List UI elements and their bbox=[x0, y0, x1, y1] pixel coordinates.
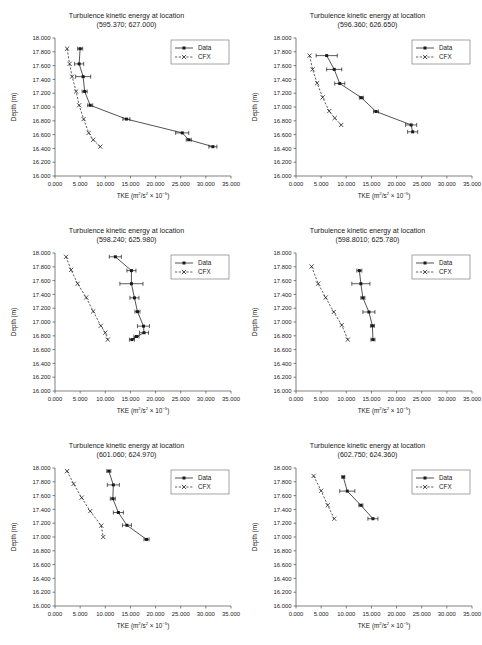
data-point-marker bbox=[346, 490, 349, 493]
cfx-point-marker bbox=[339, 123, 343, 127]
data-point-marker bbox=[360, 96, 363, 99]
series-cfx bbox=[312, 474, 337, 521]
chart-title: Turbulence kinetic energy at location bbox=[69, 227, 184, 235]
y-tick-label: 17.200 bbox=[32, 520, 51, 526]
chart-title: Turbulence kinetic energy at location bbox=[310, 12, 425, 20]
cfx-point-marker bbox=[315, 81, 319, 85]
cfx-point-marker bbox=[88, 509, 92, 513]
x-axis-label: TKE (m2/s2 × 10−5) bbox=[358, 191, 411, 200]
data-point-marker bbox=[361, 296, 364, 299]
y-tick-label: 17.400 bbox=[273, 77, 292, 83]
data-point-marker bbox=[358, 269, 361, 272]
legend[interactable]: DataCFX bbox=[412, 40, 470, 64]
chart-title: Turbulence kinetic energy at location bbox=[69, 12, 184, 20]
cfx-point-marker bbox=[332, 517, 336, 521]
chart-title: Turbulence kinetic energy at location bbox=[310, 442, 425, 450]
data-point-marker bbox=[211, 145, 214, 148]
series-line bbox=[314, 476, 335, 519]
x-tick-label: 0.000 bbox=[289, 396, 304, 402]
data-point-marker bbox=[89, 104, 92, 107]
y-tick-label: 16.400 bbox=[273, 361, 292, 367]
y-tick-label: 17.600 bbox=[273, 278, 292, 284]
data-point-marker bbox=[410, 123, 413, 126]
x-axis-label: TKE (m2/s2 × 10−5) bbox=[117, 406, 170, 415]
y-tick-label: 16.800 bbox=[273, 118, 292, 124]
data-point-marker bbox=[112, 483, 115, 486]
y-tick-label: 17.000 bbox=[273, 104, 292, 110]
y-tick-label: 18.000 bbox=[32, 35, 51, 41]
chart-panel: Turbulence kinetic energy at location(59… bbox=[241, 0, 482, 215]
data-point-marker bbox=[79, 47, 82, 50]
series-cfx bbox=[65, 469, 105, 539]
legend[interactable]: DataCFX bbox=[412, 470, 470, 494]
y-tick-label: 16.000 bbox=[32, 603, 51, 609]
data-point-marker bbox=[325, 54, 328, 57]
data-point-marker bbox=[359, 282, 362, 285]
y-tick-label: 16.600 bbox=[32, 562, 51, 568]
x-tick-label: 30.000 bbox=[438, 611, 457, 617]
y-tick-label: 17.600 bbox=[32, 278, 51, 284]
y-tick-label: 18.000 bbox=[273, 250, 292, 256]
data-point-marker bbox=[145, 538, 148, 541]
data-point-marker bbox=[333, 68, 336, 71]
chart-panel: Turbulence kinetic energy at location(60… bbox=[241, 430, 482, 645]
x-tick-label: 20.000 bbox=[388, 181, 407, 187]
legend-data-marker bbox=[183, 477, 186, 480]
y-tick-label: 17.400 bbox=[32, 77, 51, 83]
cfx-point-marker bbox=[340, 323, 344, 327]
y-tick-label: 17.600 bbox=[32, 63, 51, 69]
x-tick-label: 15.000 bbox=[121, 181, 140, 187]
legend-label-data: Data bbox=[198, 44, 212, 51]
x-tick-label: 5.000 bbox=[314, 611, 329, 617]
y-tick-label: 17.200 bbox=[273, 520, 292, 526]
chart-subtitle: (595.370; 627.000) bbox=[97, 21, 157, 29]
y-tick-label: 17.400 bbox=[32, 507, 51, 513]
x-axis-label: TKE (m2/s2 × 10−5) bbox=[117, 621, 170, 630]
y-tick-label: 16.400 bbox=[32, 361, 51, 367]
cfx-point-marker bbox=[80, 496, 84, 500]
data-point-marker bbox=[187, 138, 190, 141]
x-tick-label: 25.000 bbox=[172, 396, 191, 402]
data-point-marker bbox=[130, 269, 133, 272]
y-tick-label: 16.000 bbox=[32, 173, 51, 179]
series-line bbox=[312, 266, 348, 339]
x-axis-label: TKE (m2/s2 × 10−5) bbox=[358, 406, 411, 415]
legend[interactable]: DataCFX bbox=[171, 40, 229, 64]
figure-panel-grid: Turbulence kinetic energy at location(59… bbox=[0, 0, 482, 645]
y-tick-label: 17.800 bbox=[32, 264, 51, 270]
legend-label-cfx: CFX bbox=[439, 483, 452, 490]
cfx-point-marker bbox=[312, 474, 316, 478]
cfx-point-marker bbox=[99, 324, 103, 328]
y-tick-label: 17.800 bbox=[273, 479, 292, 485]
legend-data-marker bbox=[424, 477, 427, 480]
y-tick-label: 16.200 bbox=[273, 374, 292, 380]
data-point-marker bbox=[125, 118, 128, 121]
x-tick-label: 20.000 bbox=[388, 396, 407, 402]
legend-data-marker bbox=[183, 47, 186, 50]
cfx-point-marker bbox=[321, 95, 325, 99]
cfx-point-marker bbox=[332, 310, 336, 314]
x-tick-label: 0.000 bbox=[289, 181, 304, 187]
legend[interactable]: DataCFX bbox=[171, 470, 229, 494]
cfx-point-marker bbox=[91, 309, 95, 313]
x-tick-label: 35.000 bbox=[463, 396, 482, 402]
chart-subtitle: (598.8010; 625.780) bbox=[336, 236, 400, 244]
cfx-point-marker bbox=[101, 535, 105, 539]
x-tick-label: 10.000 bbox=[337, 396, 356, 402]
x-tick-label: 0.000 bbox=[48, 611, 63, 617]
y-tick-label: 17.400 bbox=[273, 507, 292, 513]
cfx-point-marker bbox=[326, 503, 330, 507]
x-tick-label: 30.000 bbox=[197, 611, 216, 617]
y-tick-label: 16.400 bbox=[273, 146, 292, 152]
chart-subtitle: (601.060; 624.970) bbox=[97, 451, 157, 459]
y-tick-label: 16.400 bbox=[32, 146, 51, 152]
x-tick-label: 10.000 bbox=[337, 181, 356, 187]
series-line bbox=[343, 477, 373, 519]
legend-data-marker bbox=[183, 262, 186, 265]
x-tick-label: 30.000 bbox=[438, 396, 457, 402]
chart-svg: Turbulence kinetic energy at location(60… bbox=[241, 430, 482, 645]
legend[interactable]: DataCFX bbox=[412, 255, 470, 279]
x-tick-label: 0.000 bbox=[48, 396, 63, 402]
legend[interactable]: DataCFX bbox=[171, 255, 229, 279]
cfx-point-marker bbox=[82, 117, 86, 121]
